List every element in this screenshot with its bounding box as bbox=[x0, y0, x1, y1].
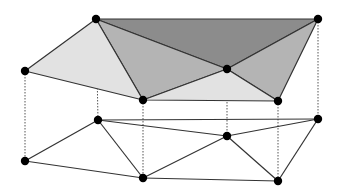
surface-vertex-C bbox=[21, 67, 29, 75]
surface-faces bbox=[25, 19, 318, 101]
base-edge-ca bbox=[25, 120, 98, 161]
base-triangulation-edges bbox=[25, 119, 318, 181]
surface-vertex-D bbox=[223, 65, 231, 73]
base-vertex-c bbox=[21, 157, 29, 165]
base-vertex-a bbox=[94, 116, 102, 124]
triangulated-surface-diagram bbox=[0, 0, 364, 191]
base-edge-bf bbox=[278, 119, 318, 181]
surface-vertex-F bbox=[274, 97, 282, 105]
base-edge-ae bbox=[98, 120, 143, 178]
base-vertex-f bbox=[274, 177, 282, 185]
base-edge-df bbox=[227, 136, 278, 181]
base-edge-ef bbox=[143, 178, 278, 181]
base-edge-ab bbox=[98, 119, 318, 120]
base-vertex-e bbox=[139, 174, 147, 182]
base-edge-ce bbox=[25, 161, 143, 178]
base-edge-ed bbox=[143, 136, 227, 178]
base-edge-db bbox=[227, 119, 318, 136]
surface-vertex-B bbox=[314, 15, 322, 23]
base-edge-ad bbox=[98, 120, 227, 136]
surface-vertex-E bbox=[139, 96, 147, 104]
base-vertex-d bbox=[223, 132, 231, 140]
base-vertex-b bbox=[314, 115, 322, 123]
surface-vertex-A bbox=[92, 15, 100, 23]
